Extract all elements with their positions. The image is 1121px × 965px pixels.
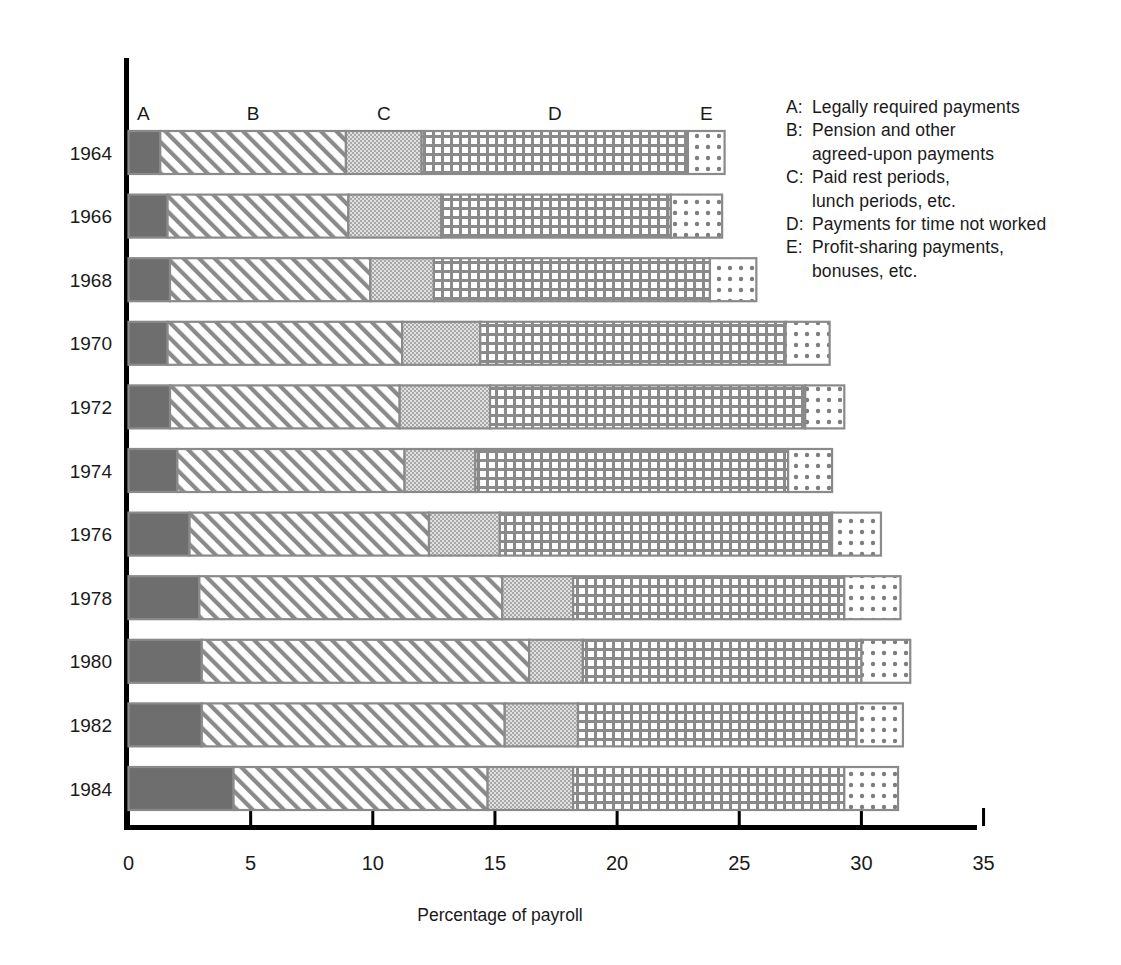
bar-segment-a xyxy=(129,385,171,428)
bar-segment-b xyxy=(234,767,488,810)
year-label: 1970 xyxy=(70,333,112,354)
bar-segment-c xyxy=(505,703,578,746)
bar-segment-b xyxy=(202,703,505,746)
segment-header-e: E xyxy=(700,103,713,124)
legend-label-e-line1: Profit-sharing payments, xyxy=(812,237,1004,257)
segment-header-d: D xyxy=(548,103,562,124)
year-label: 1984 xyxy=(70,779,113,800)
bar-segment-a xyxy=(129,131,161,174)
bar-segment-d xyxy=(578,703,857,746)
bar-segment-b xyxy=(170,385,400,428)
segment-header-labels: ABCDE xyxy=(137,103,713,124)
bar-segment-e xyxy=(805,385,844,428)
bar-segment-e xyxy=(832,513,881,556)
bar-segment-d xyxy=(475,449,788,492)
bar-segment-d xyxy=(480,322,785,365)
year-label: 1966 xyxy=(70,206,112,227)
bar-segment-a xyxy=(129,258,171,301)
bar-row xyxy=(129,449,833,492)
bar-segment-d xyxy=(573,576,844,619)
bar-segment-b xyxy=(202,640,529,683)
legend: A: Legally required payments B: Pension … xyxy=(786,96,1106,283)
bar-segment-e xyxy=(844,767,898,810)
bar-segment-c xyxy=(346,131,422,174)
year-label: 1968 xyxy=(70,270,112,291)
bar-segment-a xyxy=(129,640,202,683)
bar-segment-c xyxy=(429,513,500,556)
bar-segment-c xyxy=(348,195,441,238)
legend-item-b: B: Pension and other agreed-upon payment… xyxy=(786,119,1106,166)
legend-label-d: Payments for time not worked xyxy=(812,213,1106,236)
legend-key-c: C: xyxy=(786,166,812,189)
bar-segment-e xyxy=(844,576,900,619)
bar-segment-c xyxy=(370,258,434,301)
legend-label-c-line1: Paid rest periods, xyxy=(812,167,950,187)
bar-segment-e xyxy=(857,703,903,746)
bar-segment-d xyxy=(422,131,688,174)
bar-segment-a xyxy=(129,195,168,238)
chart-container: 05101520253035 1964196619681970197219741… xyxy=(0,0,1121,965)
legend-label-e: Profit-sharing payments, bonuses, etc. xyxy=(812,236,1106,283)
bar-segment-e xyxy=(861,640,910,683)
bar-segment-b xyxy=(177,449,404,492)
bar-segment-c xyxy=(488,767,574,810)
legend-label-c-line2: lunch periods, etc. xyxy=(812,190,1106,213)
legend-item-c: C: Paid rest periods, lunch periods, etc… xyxy=(786,166,1106,213)
bar-segment-a xyxy=(129,513,190,556)
legend-item-e: E: Profit-sharing payments, bonuses, etc… xyxy=(786,236,1106,283)
bar-segment-c xyxy=(529,640,583,683)
x-tick-label: 25 xyxy=(728,852,750,874)
bar-row xyxy=(129,767,899,810)
legend-item-d: D: Payments for time not worked xyxy=(786,213,1106,236)
bar-segment-e xyxy=(671,195,722,238)
bar-segment-b xyxy=(168,195,349,238)
x-tick xyxy=(982,808,985,826)
x-tick-label: 30 xyxy=(850,852,872,874)
bar-segment-e xyxy=(788,449,832,492)
legend-label-a: Legally required payments xyxy=(812,96,1106,119)
year-label: 1964 xyxy=(70,143,113,164)
y-axis-category-labels: 1964196619681970197219741976197819801982… xyxy=(70,143,113,800)
bar-row xyxy=(129,640,911,683)
year-label: 1982 xyxy=(70,715,112,736)
bar-row xyxy=(129,131,725,174)
bar-row xyxy=(129,513,881,556)
bar-row xyxy=(129,703,903,746)
bar-segment-d xyxy=(490,385,805,428)
bar-segment-b xyxy=(168,322,403,365)
bar-row xyxy=(129,385,845,428)
year-label: 1974 xyxy=(70,461,113,482)
x-tick-label: 5 xyxy=(245,852,256,874)
legend-label-b: Pension and other agreed-upon payments xyxy=(812,119,1106,166)
bar-segment-e xyxy=(710,258,756,301)
x-tick-label: 15 xyxy=(484,852,506,874)
legend-key-b: B: xyxy=(786,119,812,142)
bar-segment-d xyxy=(583,640,862,683)
bar-row xyxy=(129,322,830,365)
legend-label-b-line2: agreed-upon payments xyxy=(812,143,1106,166)
bar-row xyxy=(129,195,723,238)
bar-segment-d xyxy=(441,195,671,238)
x-tick-label: 0 xyxy=(123,852,134,874)
bar-segment-d xyxy=(573,767,844,810)
year-label: 1972 xyxy=(70,397,112,418)
year-label: 1976 xyxy=(70,524,112,545)
legend-key-e: E: xyxy=(786,236,812,259)
bar-row xyxy=(129,576,901,619)
bar-segment-d xyxy=(500,513,832,556)
x-axis-title: Percentage of payroll xyxy=(0,905,1000,926)
legend-label-d-line1: Payments for time not worked xyxy=(812,214,1046,234)
bar-segment-d xyxy=(434,258,710,301)
bar-segment-b xyxy=(199,576,502,619)
x-tick-label: 10 xyxy=(362,852,384,874)
x-tick-label: 20 xyxy=(606,852,628,874)
bar-segment-b xyxy=(160,131,346,174)
legend-key-a: A: xyxy=(786,96,812,119)
legend-label-b-line1: Pension and other xyxy=(812,120,956,140)
bar-segment-a xyxy=(129,703,202,746)
bar-segment-c xyxy=(400,385,490,428)
bar-segment-c xyxy=(502,576,573,619)
bar-segment-c xyxy=(405,449,476,492)
bar-segment-e xyxy=(786,322,830,365)
legend-label-e-line2: bonuses, etc. xyxy=(812,260,1106,283)
